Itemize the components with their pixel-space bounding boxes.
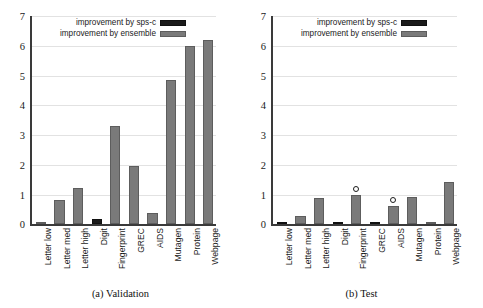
bar bbox=[203, 40, 213, 225]
y-tick-label: 6 bbox=[20, 40, 25, 51]
bar bbox=[314, 198, 324, 225]
bar bbox=[73, 188, 83, 224]
x-tick-label: AIDS bbox=[155, 228, 165, 248]
y-tick-label: 2 bbox=[261, 159, 266, 170]
y-tick-label: 3 bbox=[261, 130, 266, 141]
x-tick-label: Fingerprint bbox=[117, 228, 127, 269]
bar bbox=[36, 222, 46, 224]
y-tick-label: 5 bbox=[20, 70, 25, 81]
panel-validation: improvement by sps-c improvement by ense… bbox=[0, 0, 241, 308]
open-circle-marker-icon bbox=[353, 186, 359, 192]
plot-area-test: 01234567 bbox=[271, 16, 457, 226]
y-tick-label: 2 bbox=[20, 159, 25, 170]
panel-test: improvement by sps-c improvement by ense… bbox=[241, 0, 482, 308]
x-tick-label: Fingerprint bbox=[358, 228, 368, 269]
bar bbox=[129, 166, 139, 224]
bar bbox=[166, 80, 176, 224]
y-tick-label: 0 bbox=[261, 219, 266, 230]
x-tick-label: AIDS bbox=[396, 228, 406, 248]
bar bbox=[370, 222, 380, 224]
x-tick-label: Letter low bbox=[43, 228, 53, 265]
bar bbox=[92, 219, 102, 224]
bar bbox=[110, 126, 120, 224]
x-tick-label: Letter med bbox=[303, 228, 313, 269]
bar bbox=[185, 46, 195, 225]
y-tick-label: 6 bbox=[261, 40, 266, 51]
x-tick-label: Digit bbox=[340, 228, 350, 245]
bar bbox=[351, 195, 361, 225]
bar bbox=[147, 213, 157, 225]
bar bbox=[277, 222, 287, 224]
bar bbox=[333, 222, 343, 224]
subcaption-validation: (a) Validation bbox=[0, 288, 241, 299]
x-tick-label: Webpage bbox=[451, 228, 461, 265]
y-tick-label: 3 bbox=[20, 130, 25, 141]
x-tick-labels-test: Letter lowLetter medLetter highDigitFing… bbox=[271, 228, 457, 286]
bars-validation bbox=[32, 16, 216, 224]
y-tick-label: 7 bbox=[261, 11, 266, 22]
y-tick-label: 4 bbox=[261, 100, 266, 111]
figure-bar-charts: improvement by sps-c improvement by ense… bbox=[0, 0, 483, 308]
bars-test bbox=[273, 16, 457, 224]
bar bbox=[388, 206, 398, 224]
x-tick-label: Mutagen bbox=[414, 228, 424, 261]
bar bbox=[426, 222, 436, 224]
bar bbox=[444, 182, 454, 224]
x-tick-label: Letter low bbox=[284, 228, 294, 265]
x-tick-label: Letter high bbox=[80, 228, 90, 269]
x-tick-label: GREC bbox=[377, 228, 387, 253]
y-tick-label: 7 bbox=[20, 11, 25, 22]
y-tick-label: 4 bbox=[20, 100, 25, 111]
y-tick-label: 0 bbox=[20, 219, 25, 230]
x-tick-label: Letter high bbox=[321, 228, 331, 269]
subcaption-test: (b) Test bbox=[241, 288, 482, 299]
bar bbox=[407, 197, 417, 224]
y-tick-label: 1 bbox=[20, 189, 25, 200]
x-tick-label: Digit bbox=[99, 228, 109, 245]
bar bbox=[295, 216, 305, 224]
x-tick-label: Mutagen bbox=[173, 228, 183, 261]
plot-area-validation: 01234567 bbox=[30, 16, 216, 226]
x-tick-label: Protein bbox=[433, 228, 443, 255]
x-axis-line-validation bbox=[30, 224, 216, 226]
open-circle-marker-icon bbox=[390, 197, 396, 203]
x-axis-line-test bbox=[271, 224, 457, 226]
x-tick-labels-validation: Letter lowLetter medLetter highDigitFing… bbox=[30, 228, 216, 286]
x-tick-label: GREC bbox=[136, 228, 146, 253]
x-tick-label: Webpage bbox=[210, 228, 220, 265]
y-tick-label: 1 bbox=[261, 189, 266, 200]
x-tick-label: Protein bbox=[192, 228, 202, 255]
bar bbox=[54, 200, 64, 224]
x-tick-label: Letter med bbox=[62, 228, 72, 269]
y-tick-label: 5 bbox=[261, 70, 266, 81]
